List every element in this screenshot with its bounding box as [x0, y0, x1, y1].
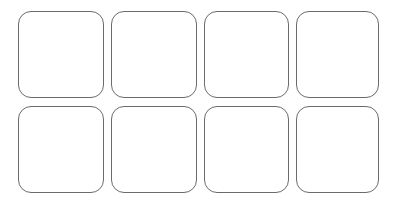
tile-r2-c3[interactable]	[204, 106, 289, 193]
tile-r2-c4[interactable]	[296, 106, 379, 193]
tile-r2-c1[interactable]	[18, 106, 104, 193]
tile-r1-c3[interactable]	[204, 11, 289, 98]
tile-r1-c2[interactable]	[111, 11, 197, 98]
tile-r1-c4[interactable]	[296, 11, 379, 98]
tile-grid	[18, 11, 379, 193]
tile-r2-c2[interactable]	[111, 106, 197, 193]
tile-r1-c1[interactable]	[18, 11, 104, 98]
